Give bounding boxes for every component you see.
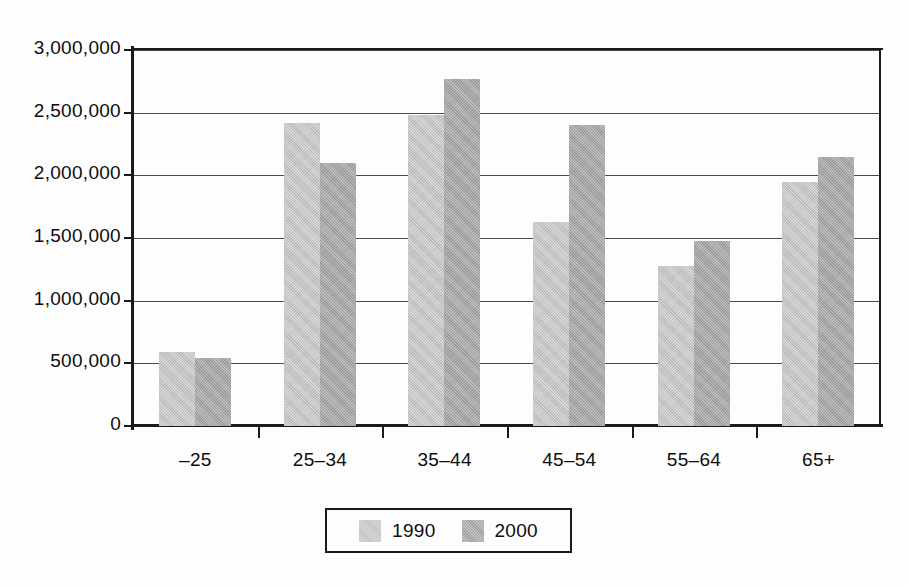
bar bbox=[444, 79, 480, 426]
x-tick-mark bbox=[382, 427, 384, 438]
y-tick-label: 0 bbox=[3, 413, 121, 435]
y-tick-mark bbox=[124, 49, 133, 51]
legend-swatch-1990 bbox=[359, 520, 381, 542]
x-tick-mark bbox=[507, 427, 509, 438]
bar bbox=[320, 163, 356, 426]
y-tick-label: 2,000,000 bbox=[3, 162, 121, 184]
y-tick-label: 3,000,000 bbox=[3, 37, 121, 59]
bars-layer bbox=[133, 50, 881, 426]
x-tick-label: 25–34 bbox=[260, 449, 380, 471]
x-tick-label: 65+ bbox=[759, 449, 879, 471]
y-tick-label: 1,000,000 bbox=[3, 288, 121, 310]
bar bbox=[533, 222, 569, 426]
y-tick-mark bbox=[124, 300, 133, 302]
legend-label-2000: 2000 bbox=[495, 520, 538, 542]
bar bbox=[569, 125, 605, 426]
x-tick-mark bbox=[632, 427, 634, 438]
legend-entry-2000: 2000 bbox=[462, 520, 538, 542]
y-tick-mark bbox=[124, 112, 133, 114]
bar bbox=[195, 358, 231, 426]
y-tick-mark bbox=[124, 237, 133, 239]
y-tick-mark bbox=[124, 362, 133, 364]
y-tick-label: 1,500,000 bbox=[3, 225, 121, 247]
bar bbox=[159, 352, 195, 426]
x-tick-mark bbox=[258, 427, 260, 438]
bar bbox=[694, 241, 730, 426]
chart-legend: 1990 2000 bbox=[325, 508, 572, 553]
y-tick-mark bbox=[124, 425, 133, 427]
chart-figure: 3,000,0002,500,0002,000,0001,500,0001,00… bbox=[0, 0, 909, 586]
x-tick-mark bbox=[756, 427, 758, 438]
y-tick-label: 500,000 bbox=[3, 350, 121, 372]
x-tick-label: –25 bbox=[135, 449, 255, 471]
y-tick-label: 2,500,000 bbox=[3, 100, 121, 122]
bar bbox=[818, 157, 854, 426]
bar bbox=[782, 182, 818, 426]
legend-swatch-2000 bbox=[462, 520, 484, 542]
y-axis-labels: 3,000,0002,500,0002,000,0001,500,0001,00… bbox=[0, 0, 121, 586]
legend-label-1990: 1990 bbox=[392, 520, 435, 542]
bar bbox=[658, 266, 694, 426]
x-tick-label: 55–64 bbox=[634, 449, 754, 471]
x-tick-label: 45–54 bbox=[509, 449, 629, 471]
y-tick-mark bbox=[124, 174, 133, 176]
bar bbox=[408, 115, 444, 426]
x-tick-label: 35–44 bbox=[385, 449, 505, 471]
bar bbox=[284, 123, 320, 426]
legend-entry-1990: 1990 bbox=[359, 520, 435, 542]
